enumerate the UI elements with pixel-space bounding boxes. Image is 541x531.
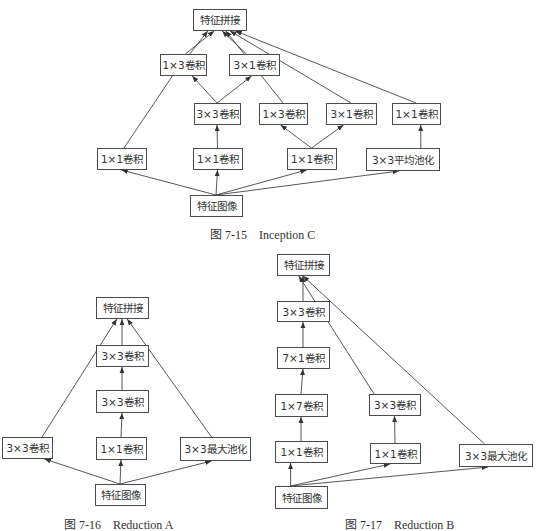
arrow-conv3x3-mid-to-concat (299, 276, 374, 394)
node-conv1x3-r: 1×3卷积 (260, 104, 308, 125)
arrow-conv1x1-right-to-conv3x1-r (312, 125, 344, 148)
node-label: 1×1卷积 (374, 448, 417, 460)
arrow-conv1x1-mid-to-conv3x3-mid (395, 416, 396, 443)
node-maxpool: 3×3最大池化 (460, 445, 533, 467)
arrow-input-to-avgpool (216, 171, 399, 195)
arrow-input-to-conv1x1-left (122, 170, 217, 195)
node-label: 3×1卷积 (330, 108, 373, 120)
node-label: 1×7卷积 (280, 400, 323, 412)
node-label: 3×3平均池化 (372, 154, 435, 166)
arrow-conv1x7-to-conv7x1 (301, 369, 303, 394)
node-input: 特征图像 (191, 196, 243, 217)
node-label: 1×3卷积 (262, 108, 305, 120)
node-avgpool: 3×3平均池化 (367, 149, 440, 171)
node-conv1x1-mid: 1×1卷积 (194, 149, 243, 170)
node-label: 3×3卷积 (196, 108, 239, 120)
node-conv7x1: 7×1卷积 (278, 348, 330, 369)
arrow-input-to-conv3x3-left (45, 459, 121, 484)
node-label: 1×3卷积 (162, 59, 205, 71)
node-label: 3×3最大池化 (184, 443, 247, 455)
reduction-b-nodes: 特征拼接3×3卷积7×1卷积1×7卷积3×3卷积1×1卷积1×1卷积3×3最大池… (276, 255, 533, 509)
node-concat: 特征拼接 (278, 255, 330, 276)
node-conv1x1-right: 1×1卷积 (288, 149, 337, 170)
caption-reduction-b: 图 7-17 Reduction B (345, 518, 454, 531)
node-conv1x1-pool: 1×1卷积 (393, 104, 441, 125)
node-label: 1×1卷积 (291, 153, 334, 165)
node-label: 特征图像 (197, 200, 238, 212)
arrow-conv1x1-to-conv3x3-a (121, 413, 122, 437)
node-label: 3×3卷积 (101, 396, 144, 408)
caption-inception-c: 图 7-15 Inception C (210, 228, 315, 242)
arrow-conv1x1-left-to-concat (124, 31, 208, 148)
node-input: 特征图像 (96, 485, 146, 506)
node-label: 3×3卷积 (374, 399, 417, 411)
node-conv3x3-mid: 3×3卷积 (370, 395, 421, 416)
node-label: 特征图像 (101, 489, 142, 501)
arrow-conv1x1-right-to-conv1x3-r (281, 125, 312, 148)
node-label: 特征拼接 (284, 259, 325, 271)
diagram-canvas: 特征拼接1×3卷积3×1卷积3×3卷积1×3卷积3×1卷积1×1卷积1×1卷积1… (0, 0, 541, 531)
reduction-a-diagram: 特征拼接3×3卷积3×3卷积3×3卷积1×1卷积3×3最大池化特征图像 (3, 298, 251, 506)
node-label: 3×3最大池化 (465, 450, 528, 462)
node-label: 1×1卷积 (197, 153, 240, 165)
arrow-input-to-conv1x1-mid (216, 170, 218, 195)
node-label: 1×1卷积 (100, 443, 143, 455)
node-label: 7×1卷积 (282, 352, 325, 364)
arrow-input-to-maxpool (120, 461, 212, 484)
node-conv3x1-top: 3×1卷积 (230, 55, 280, 76)
arrow-input-to-conv1x1 (120, 460, 121, 484)
caption-reduction-a: 图 7-16 Reduction A (64, 518, 174, 531)
node-label: 3×3卷积 (6, 442, 49, 454)
arrow-input-to-conv1x1-mid (291, 464, 390, 486)
reduction-b-diagram: 特征拼接3×3卷积7×1卷积1×7卷积3×3卷积1×1卷积1×1卷积3×3最大池… (276, 255, 533, 509)
node-conv1x1-left: 1×1卷积 (98, 149, 147, 170)
inception-c-nodes: 特征拼接1×3卷积3×1卷积3×3卷积1×3卷积3×1卷积1×1卷积1×1卷积1… (98, 10, 441, 217)
node-label: 特征拼接 (200, 14, 241, 26)
node-conv3x3-left: 3×3卷积 (3, 438, 53, 459)
arrow-maxpool-to-concat (127, 319, 211, 437)
node-concat: 特征拼接 (97, 298, 149, 319)
node-concat: 特征拼接 (194, 10, 247, 31)
node-input: 特征图像 (276, 487, 328, 509)
node-label: 3×1卷积 (233, 59, 276, 71)
node-conv1x1: 1×1卷积 (97, 438, 147, 460)
node-label: 特征拼接 (103, 302, 144, 314)
arrow-conv3x3-to-conv1x3-top (192, 76, 217, 103)
node-conv3x3-a: 3×3卷积 (97, 391, 149, 413)
inception-c-diagram: 特征拼接1×3卷积3×1卷积3×3卷积1×3卷积3×1卷积1×1卷积1×1卷积1… (98, 10, 441, 217)
arrow-maxpool-to-concat (303, 276, 485, 444)
node-conv1x1-left: 1×1卷积 (276, 442, 328, 463)
node-label: 3×3卷积 (101, 350, 144, 362)
node-maxpool: 3×3最大池化 (181, 438, 251, 461)
reduction-a-nodes: 特征拼接3×3卷积3×3卷积3×3卷积1×1卷积3×3最大池化特征图像 (3, 298, 251, 506)
node-conv3x3: 3×3卷积 (195, 104, 241, 125)
node-conv1x1-mid: 1×1卷积 (371, 444, 421, 464)
arrow-conv1x1-mid-to-conv3x3 (217, 125, 218, 148)
arrow-conv1x3-top-to-concat (185, 31, 214, 54)
arrow-conv3x3-left-to-concat (42, 319, 117, 437)
node-conv1x3-top: 1×3卷积 (161, 55, 207, 76)
node-label: 3×3卷积 (282, 306, 325, 318)
node-label: 特征图像 (282, 492, 323, 504)
arrow-input-to-conv1x1-right (216, 170, 307, 195)
node-label: 1×1卷积 (280, 446, 323, 458)
node-conv1x7: 1×7卷积 (276, 395, 328, 417)
node-conv3x3-b: 3×3卷积 (97, 346, 149, 367)
node-label: 1×1卷积 (395, 108, 438, 120)
arrow-conv3x3-to-conv3x1-top (217, 76, 252, 103)
node-label: 1×1卷积 (101, 153, 144, 165)
arrow-input-to-maxpool (291, 467, 489, 486)
node-conv3x1-r: 3×1卷积 (327, 104, 377, 125)
node-conv3x3-top: 3×3卷积 (278, 302, 330, 322)
